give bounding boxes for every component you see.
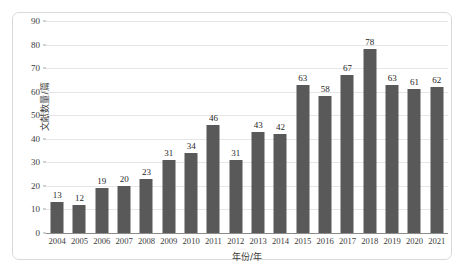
y-tick-label: 40 [31, 134, 40, 144]
x-tick-label: 2016 [317, 236, 334, 246]
bar-group: 122005 [68, 21, 90, 233]
bar-value-label: 78 [365, 37, 374, 47]
bar-value-label: 63 [298, 73, 307, 83]
bar [386, 85, 399, 233]
bar-value-label: 62 [432, 75, 441, 85]
x-tick-label: 2015 [294, 236, 311, 246]
x-tick-label: 2012 [227, 236, 244, 246]
bar-group: 342010 [180, 21, 202, 233]
y-tick-label: 80 [31, 40, 40, 50]
bar [274, 134, 287, 233]
bar-group: 462011 [202, 21, 224, 233]
bar-value-label: 31 [231, 148, 240, 158]
x-tick-label: 2006 [93, 236, 110, 246]
bar-value-label: 67 [343, 63, 352, 73]
bar-group: 782018 [359, 21, 381, 233]
bar-group: 192006 [91, 21, 113, 233]
bar [51, 202, 64, 233]
bar [73, 205, 86, 233]
bar-value-label: 23 [142, 167, 151, 177]
bar-group: 582016 [314, 21, 336, 233]
bar-value-label: 34 [187, 141, 196, 151]
x-tick-label: 2008 [138, 236, 155, 246]
bar-group: 432013 [247, 21, 269, 233]
x-tick-label: 2010 [183, 236, 200, 246]
bar-group: 202007 [113, 21, 135, 233]
bar [162, 160, 175, 233]
bar-group: 632015 [292, 21, 314, 233]
bar-value-label: 19 [97, 176, 106, 186]
y-tick-label: 0 [36, 228, 41, 238]
y-tick-label: 10 [31, 204, 40, 214]
bar-group: 632019 [381, 21, 403, 233]
plot-area: 0102030405060708090 13200412200519200620… [46, 21, 448, 233]
bar [341, 75, 354, 233]
x-tick-label: 2019 [384, 236, 401, 246]
bar [95, 188, 108, 233]
x-tick-label: 2021 [428, 236, 445, 246]
bar-value-label: 20 [120, 174, 129, 184]
bar [229, 160, 242, 233]
bar-value-label: 13 [53, 190, 62, 200]
bar [319, 96, 332, 233]
x-axis-line [46, 233, 448, 234]
bar [408, 89, 421, 233]
bar-value-label: 61 [410, 77, 419, 87]
chart-figure: 文献数量/篇 0102030405060708090 1320041220051… [0, 0, 466, 275]
bar-value-label: 43 [254, 120, 263, 130]
bar [118, 186, 131, 233]
x-tick-label: 2005 [71, 236, 88, 246]
bar-group: 312012 [225, 21, 247, 233]
y-tick-label: 30 [31, 157, 40, 167]
x-axis-title: 年份/年 [46, 250, 448, 263]
y-tick-label: 90 [31, 16, 40, 26]
bar-value-label: 42 [276, 122, 285, 132]
bar [252, 132, 265, 233]
bar-series: 1320041220051920062020072320083120093420… [46, 21, 448, 233]
y-tick-label: 50 [31, 110, 40, 120]
bar [296, 85, 309, 233]
y-tick-label: 60 [31, 87, 40, 97]
bar-group: 312009 [158, 21, 180, 233]
bar-value-label: 46 [209, 113, 218, 123]
bar-group: 612020 [403, 21, 425, 233]
bar [140, 179, 153, 233]
x-tick-label: 2017 [339, 236, 356, 246]
bar-value-label: 12 [75, 193, 84, 203]
x-tick-label: 2009 [160, 236, 177, 246]
bar-group: 672017 [336, 21, 358, 233]
x-tick-label: 2004 [49, 236, 66, 246]
bar-group: 422014 [269, 21, 291, 233]
x-tick-label: 2013 [250, 236, 267, 246]
bar-group: 232008 [135, 21, 157, 233]
y-tick-label: 70 [31, 63, 40, 73]
bar-value-label: 58 [321, 84, 330, 94]
bar [430, 87, 443, 233]
bar-value-label: 31 [164, 148, 173, 158]
bar [185, 153, 198, 233]
bar-value-label: 63 [388, 73, 397, 83]
bar-group: 132004 [46, 21, 68, 233]
x-tick-label: 2014 [272, 236, 289, 246]
y-tick-label: 20 [31, 181, 40, 191]
x-tick-label: 2018 [361, 236, 378, 246]
bar [363, 49, 376, 233]
x-tick-label: 2020 [406, 236, 423, 246]
x-tick-label: 2007 [116, 236, 133, 246]
x-tick-label: 2011 [205, 236, 222, 246]
bar [207, 125, 220, 233]
bar-group: 622021 [426, 21, 448, 233]
